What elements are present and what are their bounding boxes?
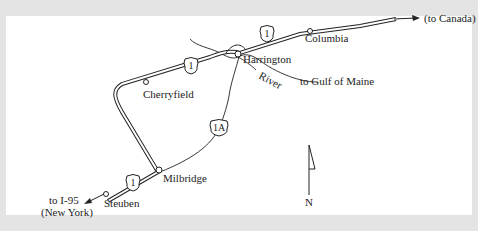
- us-route-1-road: [108, 19, 396, 201]
- map-canvas: 1 1 1 1A (to Canada) Columbia Harrington…: [0, 0, 478, 231]
- route-1a-road: [160, 57, 239, 172]
- compass-north-label: N: [305, 196, 313, 208]
- label-new-york: (New York): [41, 206, 93, 219]
- label-harrington: Harrington: [243, 53, 292, 65]
- route-shield-us1-east: 1: [260, 26, 274, 43]
- label-to-gulf-of-maine: to Gulf of Maine: [300, 75, 374, 87]
- arrow-to-i95: [84, 194, 104, 204]
- town-marker-harrington: [235, 51, 241, 57]
- town-marker-cherryfield: [144, 80, 149, 85]
- north-arrow-icon: [309, 145, 315, 195]
- label-to-i95: to I-95: [49, 194, 79, 206]
- label-columbia: Columbia: [305, 32, 349, 44]
- svg-text:1: 1: [189, 60, 194, 71]
- arrow-to-canada: [394, 15, 420, 21]
- label-cherryfield: Cherryfield: [143, 88, 194, 100]
- route-shield-us1-south: 1: [126, 175, 140, 192]
- town-marker-steuben: [104, 192, 109, 197]
- town-marker-milbridge: [156, 167, 162, 173]
- route-shield-1a: 1A: [210, 120, 228, 137]
- svg-text:1: 1: [131, 177, 136, 188]
- label-to-canada: (to Canada): [424, 12, 476, 25]
- route-shield-us1-center: 1: [184, 58, 198, 75]
- label-milbridge: Milbridge: [163, 172, 207, 184]
- svg-text:1: 1: [265, 28, 270, 39]
- label-steuben: Steuben: [104, 197, 140, 209]
- svg-text:1A: 1A: [213, 122, 226, 133]
